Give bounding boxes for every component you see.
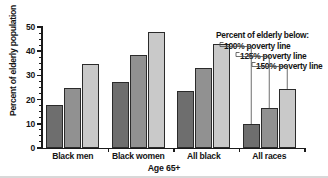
bar (177, 91, 194, 148)
y-tick-label: 0 (30, 143, 35, 153)
y-tick-label: 40 (26, 46, 35, 56)
y-tick-minor (39, 105, 42, 106)
y-tick-major (37, 123, 41, 125)
bar-group (42, 27, 108, 148)
x-axis-title: Age 65+ (0, 163, 328, 173)
legend-title: Percent of elderly below: (216, 30, 328, 40)
x-axis-end-tick (304, 148, 306, 152)
bar (195, 68, 212, 148)
bar (213, 44, 230, 148)
bar (130, 55, 147, 148)
bar (82, 64, 99, 148)
y-tick-major (37, 75, 41, 77)
y-tick-minor (39, 63, 42, 64)
y-tick-minor (39, 45, 42, 46)
y-tick-minor (39, 87, 42, 88)
y-tick-minor (39, 57, 42, 58)
bar (148, 32, 165, 148)
bar-chart-figure: Percent of elderly population 0102030405… (0, 0, 328, 178)
y-tick-minor (39, 81, 42, 82)
y-tick-minor (39, 141, 42, 142)
bar (64, 88, 81, 149)
x-axis-group-separator (173, 148, 175, 152)
y-tick-label: 50 (26, 22, 35, 32)
y-tick-label: 20 (26, 95, 35, 105)
legend-item-2: 125% poverty line (240, 51, 307, 61)
bar (112, 82, 129, 148)
bar (46, 105, 63, 148)
y-tick-minor (39, 135, 42, 136)
legend-item-1: 100% poverty line (224, 41, 291, 51)
x-tick-label: Black men (52, 151, 93, 161)
y-tick-minor (39, 93, 42, 94)
legend-item-3: 150% poverty line (256, 61, 323, 71)
bar-group (108, 27, 174, 148)
y-tick-major (37, 147, 41, 149)
y-tick-major (37, 26, 41, 28)
y-tick-minor (39, 33, 42, 34)
y-tick-major (37, 99, 41, 101)
bar (261, 108, 278, 148)
y-tick-minor (39, 69, 42, 70)
y-tick-minor (39, 111, 42, 112)
bar (243, 124, 260, 148)
x-tick-label: Black women (112, 151, 165, 161)
y-tick-minor (39, 117, 42, 118)
y-tick-label: 10 (26, 119, 35, 129)
y-tick-major (37, 50, 41, 52)
x-axis-group-separator (108, 148, 110, 152)
legend: Percent of elderly below: 100% poverty l… (213, 30, 328, 40)
x-tick-label: All black (187, 151, 221, 161)
x-tick-label: All races (252, 151, 286, 161)
y-tick-minor (39, 39, 42, 40)
x-axis-group-separator (239, 148, 241, 152)
bar (279, 89, 296, 148)
y-axis-title: Percent of elderly population (6, 0, 20, 121)
y-tick-minor (39, 129, 42, 130)
y-tick-label: 30 (26, 70, 35, 80)
